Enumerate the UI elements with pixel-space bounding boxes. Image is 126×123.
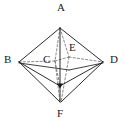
vertex-label-D: D bbox=[110, 54, 118, 65]
vertex-label-F: F bbox=[57, 108, 63, 119]
edge-A-D bbox=[60, 28, 103, 62]
edge-A-C bbox=[55, 28, 60, 61]
vertex-label-E: E bbox=[69, 42, 76, 53]
vertex-label-C: C bbox=[43, 54, 50, 65]
vertex-label-A: A bbox=[57, 2, 65, 13]
edge-C-E bbox=[55, 57, 69, 61]
geometry-figure: A B C E D F bbox=[0, 0, 126, 123]
edge-A-B bbox=[19, 28, 60, 62]
octahedron-drawing bbox=[0, 0, 126, 123]
edge-A-E bbox=[60, 28, 69, 57]
visible-edges-group bbox=[19, 28, 103, 102]
vertex-label-B: B bbox=[4, 54, 11, 65]
